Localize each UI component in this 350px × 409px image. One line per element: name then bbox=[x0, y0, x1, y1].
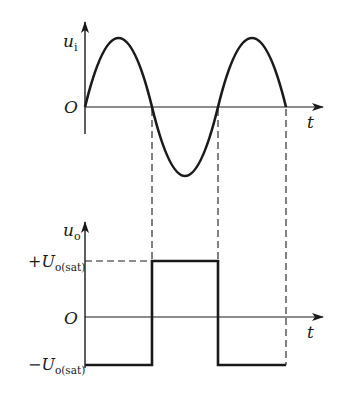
bottom-y-label: uo bbox=[63, 220, 81, 243]
output-waveform-plot: uo +Uo(sat) O −Uo(sat) t bbox=[28, 220, 323, 376]
bottom-x-label: t bbox=[307, 322, 314, 342]
waveform-diagram: ui O t uo +Uo(sat) O −Uo(sat) t bbox=[0, 0, 350, 409]
transition-guides bbox=[85, 109, 286, 365]
top-x-label: t bbox=[307, 112, 314, 132]
top-y-label: ui bbox=[63, 31, 78, 54]
bottom-origin-label: O bbox=[64, 308, 78, 328]
input-waveform-plot: ui O t bbox=[63, 22, 323, 176]
positive-saturation-label: +Uo(sat) bbox=[28, 252, 85, 273]
square-wave bbox=[85, 261, 286, 365]
top-origin-label: O bbox=[64, 97, 78, 117]
negative-saturation-label: −Uo(sat) bbox=[28, 355, 85, 376]
